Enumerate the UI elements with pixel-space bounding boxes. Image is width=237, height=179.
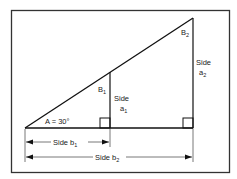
side-a2-label: a2 (199, 68, 206, 78)
arrow-left-icon (26, 155, 33, 160)
triangle-diagram: Side b1 Side b2 A = 30° B1 B2 Side a1 Si… (0, 0, 237, 179)
side-a2-label-top: Side (196, 58, 211, 67)
arrow-right-icon (102, 140, 109, 145)
angle-a-label: A = 30° (45, 117, 69, 126)
arrow-left-icon (26, 140, 33, 145)
side-b2-label: Side b2 (95, 153, 119, 163)
frame-border (12, 11, 230, 173)
angle-b1-label: B1 (98, 85, 106, 95)
angle-b2-label: B2 (181, 28, 189, 38)
side-b1-label: Side b1 (53, 138, 77, 148)
hypotenuse-line (25, 18, 193, 128)
right-angle-marker-1 (100, 118, 110, 128)
right-angle-marker-2 (183, 118, 193, 128)
side-a1-label: a1 (120, 104, 127, 114)
arrow-right-icon (185, 155, 192, 160)
side-a1-label-top: Side (114, 94, 129, 103)
